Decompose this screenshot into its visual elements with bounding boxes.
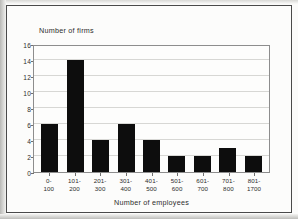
x-axis-tick-mark xyxy=(100,173,101,176)
x-axis-tick-mark xyxy=(254,173,255,176)
x-axis-tick-mark xyxy=(152,173,153,176)
bar xyxy=(143,140,160,172)
y-axis-tick-label: 10 xyxy=(9,90,31,97)
y-axis-tick-label: 0 xyxy=(9,170,31,177)
x-axis-tick-label-line2: 1700 xyxy=(242,185,266,193)
bar xyxy=(168,156,185,172)
x-axis-tick-label-line2: 600 xyxy=(165,185,189,193)
x-axis-tick-label-line1: 701- xyxy=(222,177,235,184)
x-axis-tick-mark xyxy=(177,173,178,176)
bar-series xyxy=(34,46,269,172)
plot-area xyxy=(33,45,270,173)
scanned-page: Number of firms 0246810121416 0-100101-2… xyxy=(0,0,298,219)
x-axis-tick-label-line1: 801- xyxy=(248,177,261,184)
y-axis-tick-label: 12 xyxy=(9,74,31,81)
x-axis-tick-label-line1: 101- xyxy=(68,177,81,184)
y-axis-title: Number of firms xyxy=(39,26,94,35)
y-axis-tick-label: 2 xyxy=(9,154,31,161)
x-axis-tick-label-line1: 0- xyxy=(46,177,52,184)
x-axis-tick-mark xyxy=(126,173,127,176)
x-axis-tick-label: 101-200 xyxy=(62,177,86,197)
y-axis: 0246810121416 xyxy=(6,45,31,173)
x-axis-tick-label: 801-1700 xyxy=(242,177,266,197)
bar-chart: Number of firms 0246810121416 0-100101-2… xyxy=(6,5,292,213)
x-axis-tick-label-line1: 201- xyxy=(94,177,107,184)
x-axis-title: Number of employees xyxy=(33,198,270,207)
x-axis-tick-label: 701-800 xyxy=(216,177,240,197)
x-axis-tick-label: 301-400 xyxy=(114,177,138,197)
x-axis-tick-label-line2: 700 xyxy=(191,185,215,193)
x-axis-tick-label-line1: 301- xyxy=(119,177,132,184)
x-axis-tick-label-line2: 100 xyxy=(37,185,61,193)
y-axis-tick-label: 16 xyxy=(9,42,31,49)
x-axis-tick-label: 0-100 xyxy=(37,177,61,197)
x-axis-tick-label-line1: 601- xyxy=(196,177,209,184)
y-axis-tick-label: 6 xyxy=(9,122,31,129)
x-axis-tick-label-line2: 400 xyxy=(114,185,138,193)
bar xyxy=(194,156,211,172)
x-axis-tick-mark xyxy=(75,173,76,176)
x-axis-tick-label-line2: 500 xyxy=(139,185,163,193)
y-axis-tick-label: 4 xyxy=(9,138,31,145)
bar xyxy=(118,124,135,172)
x-axis-tick-label: 401-500 xyxy=(139,177,163,197)
y-axis-tick-mark xyxy=(31,173,34,174)
x-axis-tick-mark xyxy=(203,173,204,176)
y-axis-tick-label: 14 xyxy=(9,58,31,65)
x-axis-tick-label: 501-600 xyxy=(165,177,189,197)
x-axis-tick-label-line1: 401- xyxy=(145,177,158,184)
x-axis-tick-label-line2: 800 xyxy=(216,185,240,193)
x-axis-tick-label-line1: 501- xyxy=(171,177,184,184)
y-axis-tick-label: 8 xyxy=(9,106,31,113)
bar xyxy=(92,140,109,172)
x-axis-tick-mark xyxy=(49,173,50,176)
x-axis-tick-label-line2: 300 xyxy=(88,185,112,193)
scan-edge-bottom xyxy=(0,214,298,219)
bar xyxy=(245,156,262,172)
scan-edge-top xyxy=(0,0,298,4)
bar xyxy=(41,124,58,172)
x-axis-tick-label: 601-700 xyxy=(191,177,215,197)
bar xyxy=(219,148,236,172)
x-axis-tick-label: 201-300 xyxy=(88,177,112,197)
x-axis-tick-label-line2: 200 xyxy=(62,185,86,193)
bar xyxy=(67,60,84,172)
x-axis-tick-mark xyxy=(229,173,230,176)
x-axis-tick-labels: 0-100101-200201-300301-400401-500501-600… xyxy=(33,177,270,197)
